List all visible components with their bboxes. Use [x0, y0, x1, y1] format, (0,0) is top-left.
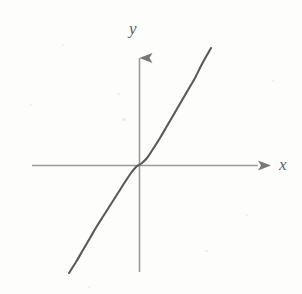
x-axis-label: x [279, 156, 287, 173]
scan-speck [246, 214, 248, 216]
scan-speck [62, 44, 64, 46]
scan-speck [272, 80, 274, 82]
graph-canvas [0, 0, 302, 294]
scan-speck [122, 118, 126, 121]
scan-speck [205, 250, 208, 252]
scan-speck [117, 93, 120, 95]
scan-speck [88, 286, 90, 288]
y-axis-label: y [129, 20, 137, 37]
scan-speck [30, 104, 32, 106]
graph-figure: y x [0, 0, 302, 294]
